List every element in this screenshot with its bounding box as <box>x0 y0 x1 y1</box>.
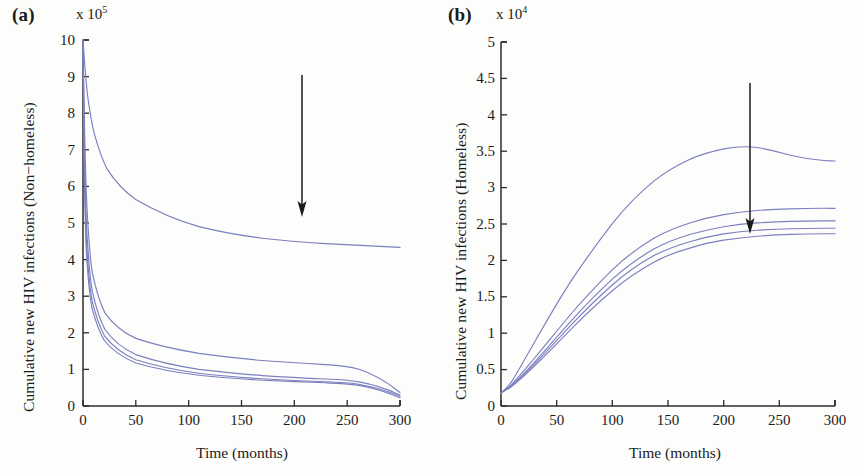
panel-b-ytick-3.5: 3.5 <box>452 143 495 160</box>
panel-a-ytick-8: 8 <box>35 105 75 122</box>
panel-b-xtick-200: 200 <box>704 412 744 429</box>
panel-b-xtick-300: 300 <box>815 412 855 429</box>
panel-b-ytick-3: 3 <box>452 179 495 196</box>
panel-a-curve-3 <box>83 40 400 395</box>
panel-a-curves <box>83 40 400 398</box>
panel-b-xtick-100: 100 <box>592 412 632 429</box>
panel-a-ytick-3: 3 <box>35 288 75 305</box>
panel-b-xtick-50: 50 <box>537 412 577 429</box>
panel-a-xtick-0: 0 <box>63 412 103 429</box>
panel-b-ytick-4.5: 4.5 <box>452 70 495 87</box>
panel-b-xtick-0: 0 <box>481 412 521 429</box>
panel-a-ytick-1: 1 <box>35 361 75 378</box>
panel-a-curve-4 <box>83 40 400 396</box>
panel-b-curves <box>501 147 835 393</box>
panel-a-ytick-10: 10 <box>28 32 75 49</box>
panel-b-ytick-4: 4 <box>452 107 495 124</box>
panel-a-xtick-200: 200 <box>274 412 314 429</box>
panel-a: (a) x 105 Cumulative new HIV infections … <box>0 0 430 476</box>
panel-b-ytick-5: 5 <box>452 34 495 51</box>
panel-b-curve-4 <box>501 228 835 393</box>
panel-a-ytick-9: 9 <box>35 69 75 86</box>
panel-b-ytick-2.5: 2.5 <box>452 216 495 233</box>
panel-a-ytick-2: 2 <box>35 325 75 342</box>
panel-b: (b) x 104 Cumulative new HIV infections … <box>430 0 857 476</box>
panel-b-y-ticks <box>501 42 507 406</box>
figure-container: (a) x 105 Cumulative new HIV infections … <box>0 0 857 476</box>
panel-a-xtick-150: 150 <box>222 412 262 429</box>
panel-b-ytick-1: 1 <box>452 325 495 342</box>
panel-b-curve-2 <box>501 208 835 393</box>
panel-b-xtick-250: 250 <box>759 412 799 429</box>
panel-a-trend-arrow <box>298 75 307 217</box>
panel-b-ytick-2: 2 <box>452 252 495 269</box>
panel-a-ytick-7: 7 <box>35 142 75 159</box>
panel-a-xtick-100: 100 <box>169 412 209 429</box>
panel-b-x-ticks <box>501 400 835 406</box>
panel-a-ytick-5: 5 <box>35 215 75 232</box>
panel-b-ytick-0.5: 0.5 <box>452 361 495 378</box>
panel-a-ytick-4: 4 <box>35 252 75 269</box>
panel-a-xtick-50: 50 <box>116 412 156 429</box>
panel-a-curve-5 <box>83 40 400 398</box>
panel-b-curve-3 <box>501 221 835 393</box>
panel-a-ytick-6: 6 <box>35 178 75 195</box>
panel-b-xtick-150: 150 <box>648 412 688 429</box>
panel-a-curve-2 <box>83 40 400 393</box>
panel-b-ytick-1.5: 1.5 <box>452 288 495 305</box>
panel-b-curve-1 <box>501 147 835 393</box>
panel-a-xtick-300: 300 <box>380 412 420 429</box>
panel-a-x-ticks <box>83 400 400 406</box>
panel-b-axes <box>501 42 835 406</box>
panel-a-xtick-250: 250 <box>327 412 367 429</box>
panel-a-axes <box>83 40 400 406</box>
panel-a-curve-1 <box>83 40 400 247</box>
